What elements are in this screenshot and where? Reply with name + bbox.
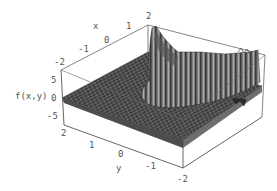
- y-tick: -1: [145, 162, 156, 171]
- y-tick: 0: [118, 150, 123, 159]
- y-tick: -2: [177, 175, 188, 184]
- y-axis-label: y: [116, 164, 121, 173]
- y-tick: 1: [89, 141, 94, 150]
- z-tick: 5: [51, 76, 56, 85]
- z-tick: 0: [51, 94, 56, 103]
- x-tick: -2: [54, 58, 65, 67]
- z-tick: -5: [47, 112, 58, 121]
- x-tick: -1: [78, 45, 89, 54]
- x-axis-label: x: [93, 22, 98, 31]
- y-tick: 2: [61, 129, 66, 138]
- z-axis-label: f(x,y): [15, 92, 48, 101]
- x-tick: 1: [126, 22, 131, 31]
- x-tick: 2: [146, 12, 151, 21]
- x-tick: 0: [104, 36, 109, 45]
